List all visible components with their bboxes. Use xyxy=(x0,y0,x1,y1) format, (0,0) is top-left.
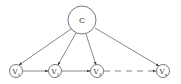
diagram-canvas: C V 1 V 2 V 3 V n xyxy=(0,0,181,84)
edge-c-v1 xyxy=(19,29,71,65)
node-v3: V 3 xyxy=(91,65,104,78)
edge-c-v3 xyxy=(86,34,96,65)
node-v2: V 2 xyxy=(49,65,62,78)
node-c-label: C xyxy=(79,16,85,25)
node-vn: V n xyxy=(157,65,170,78)
node-v1: V 1 xyxy=(10,65,23,78)
node-v2-sub: 2 xyxy=(57,72,60,77)
node-c: C xyxy=(68,6,96,34)
node-v3-sub: 3 xyxy=(99,72,102,77)
edge-c-vn xyxy=(95,28,159,66)
node-vn-sub: n xyxy=(165,72,168,77)
edge-c-v2 xyxy=(58,33,76,65)
node-v1-sub: 1 xyxy=(18,72,21,77)
